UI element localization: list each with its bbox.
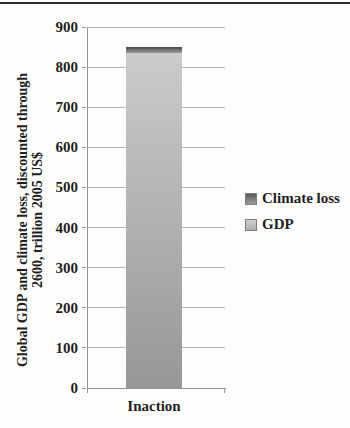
- x-tick-label-inaction: Inaction: [104, 398, 204, 415]
- legend-swatch-climate-loss-icon: [245, 193, 257, 205]
- legend-label-climate-loss: Climate loss: [262, 190, 340, 207]
- y-tick-label-300: 300: [18, 259, 78, 277]
- legend: Climate lossGDP: [245, 190, 340, 242]
- y-tick-mark: [82, 227, 86, 228]
- y-tick-mark: [82, 67, 86, 68]
- bar-segment-gdp: [126, 53, 182, 388]
- y-gridline: [87, 27, 225, 28]
- legend-swatch-gdp-icon: [245, 219, 257, 231]
- legend-item-climate-loss: Climate loss: [245, 190, 340, 207]
- y-tick-mark: [82, 307, 86, 308]
- y-tick-label-800: 800: [18, 58, 78, 76]
- x-axis-line: [87, 388, 226, 389]
- y-tick-mark: [82, 388, 86, 389]
- y-tick-label-400: 400: [18, 219, 78, 237]
- y-tick-label-900: 900: [18, 18, 78, 36]
- y-tick-label-200: 200: [18, 299, 78, 317]
- y-tick-mark: [82, 107, 86, 108]
- x-tick-mark: [87, 389, 88, 393]
- y-tick-label-0: 0: [18, 379, 78, 397]
- y-tick-label-100: 100: [18, 339, 78, 357]
- y-tick-label-500: 500: [18, 178, 78, 196]
- y-tick-mark: [82, 187, 86, 188]
- plot-area: [87, 27, 225, 388]
- y-tick-mark: [82, 347, 86, 348]
- y-tick-mark: [82, 267, 86, 268]
- legend-label-gdp: GDP: [262, 216, 294, 233]
- bar-segment-climate-loss: [126, 47, 182, 53]
- y-tick-label-700: 700: [18, 98, 78, 116]
- y-axis-line: [87, 27, 88, 388]
- y-tick-label-600: 600: [18, 138, 78, 156]
- figure-page: Global GDP and climate loss, discounted …: [0, 0, 350, 428]
- page-top-rule: [0, 2, 350, 4]
- y-tick-mark: [82, 147, 86, 148]
- y-tick-mark: [82, 27, 86, 28]
- legend-item-gdp: GDP: [245, 216, 340, 233]
- x-tick-mark: [224, 389, 225, 393]
